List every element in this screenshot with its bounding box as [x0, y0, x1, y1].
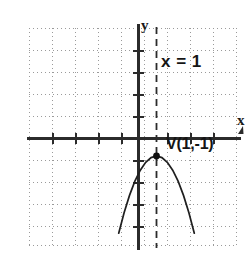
vertex-coordinate-label: V(1,-1)	[166, 136, 214, 152]
axis-of-symmetry-equation-label: x = 1	[161, 53, 202, 70]
vertex-point-marker	[153, 153, 160, 160]
y-axis-label: y	[141, 18, 149, 33]
coordinate-plane	[0, 0, 252, 272]
graph-canvas: y x x = 1 V(1,-1)	[0, 0, 252, 272]
x-axis-label: x	[237, 113, 245, 128]
